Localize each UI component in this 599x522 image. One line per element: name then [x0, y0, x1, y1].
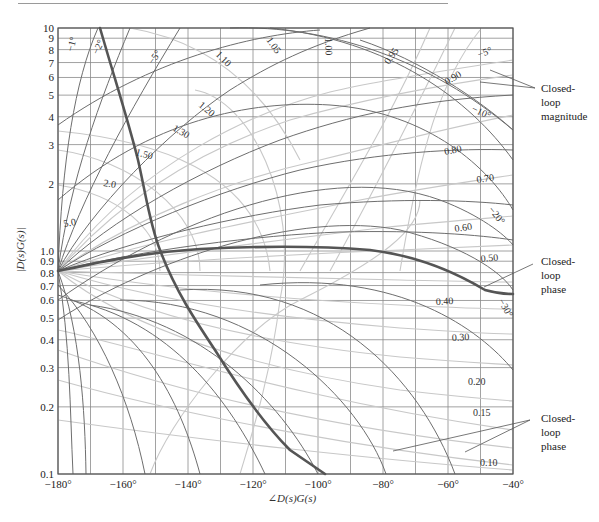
y-axis-ticks: 10987654321.00.90.80.70.60.50.40.30.20.1	[40, 22, 54, 480]
nichols-chart: 5.0 2.0 1.50 1.30 1.20 1.10 1.05 1.00 0.…	[0, 0, 599, 522]
label-2-0: 2.0	[103, 177, 117, 190]
label-0-50: 0.50	[480, 252, 498, 264]
svg-text:loop: loop	[541, 269, 561, 281]
label-minus-10-deg: −10°	[470, 103, 492, 121]
x-tick-label: −80°	[372, 478, 394, 490]
label-5-0: 5.0	[62, 216, 76, 229]
svg-text:loop: loop	[541, 426, 561, 438]
label-0-10: 0.10	[480, 457, 498, 468]
label-1-00: 1.00	[323, 38, 335, 56]
x-tick-label: −120°	[239, 478, 266, 490]
label-0-60: 0.60	[454, 221, 473, 234]
x-tick-label: −100°	[304, 478, 331, 490]
svg-text:Closed-: Closed-	[541, 412, 576, 424]
y-tick-label: 0.7	[40, 280, 54, 292]
label-minus-5-deg-right: −5°	[476, 45, 494, 60]
label-0-80: 0.80	[443, 143, 462, 157]
y-tick-label: 0.3	[40, 362, 54, 374]
y-tick-label: 4	[49, 111, 55, 123]
y-tick-label: 6	[49, 71, 55, 83]
x-tick-label: −180°	[44, 478, 71, 490]
label-0-20: 0.20	[468, 376, 486, 387]
x-axis-title: ∠D(s)G(s)	[268, 492, 317, 505]
y-tick-label: 2	[49, 178, 55, 190]
y-tick-label: 0.4	[40, 334, 54, 346]
y-tick-label: 5	[49, 89, 55, 101]
y-tick-label: 7	[49, 57, 55, 69]
label-1-30: 1.30	[171, 122, 192, 140]
x-tick-label: −140°	[174, 478, 201, 490]
label-0-40: 0.40	[436, 295, 454, 307]
svg-text:phase: phase	[541, 283, 566, 295]
svg-text:Closed-: Closed-	[541, 255, 576, 267]
y-tick-label: 0.5	[40, 312, 54, 324]
y-tick-label: 0.8	[40, 267, 54, 279]
label-0-95: 0.95	[382, 46, 401, 67]
annotation-closed-loop-phase-lower: Closed- loop phase	[393, 412, 576, 452]
svg-text:phase: phase	[541, 440, 566, 452]
y-tick-label: 0.2	[40, 401, 54, 413]
y-tick-label: 3	[49, 139, 55, 151]
x-axis-ticks: −180°−160°−140°−120°−100°−80°−60°−40°	[44, 478, 523, 490]
label-minus-5-deg-left: −5°	[146, 48, 163, 66]
y-tick-label: 9	[49, 32, 55, 44]
x-tick-label: −160°	[109, 478, 136, 490]
svg-text:Closed-: Closed-	[541, 82, 576, 94]
svg-text:loop: loop	[541, 96, 561, 108]
label-0-15: 0.15	[473, 407, 491, 418]
y-tick-label: 0.6	[40, 294, 54, 306]
x-tick-label: −40°	[502, 478, 524, 490]
magnitude-labels: 5.0 2.0 1.50 1.30 1.20 1.10 1.05 1.00 0.…	[62, 35, 498, 468]
y-axis-title: |D(s)G(s)|	[14, 227, 27, 272]
y-tick-label: 8	[49, 44, 55, 56]
x-tick-label: −60°	[437, 478, 459, 490]
svg-text:magnitude: magnitude	[541, 110, 588, 122]
label-0-70: 0.70	[476, 172, 495, 185]
label-1-10: 1.10	[214, 49, 234, 69]
label-0-30: 0.30	[452, 331, 470, 343]
label-minus-20-deg: −20°	[486, 204, 507, 226]
y-tick-label: 0.9	[40, 255, 54, 267]
